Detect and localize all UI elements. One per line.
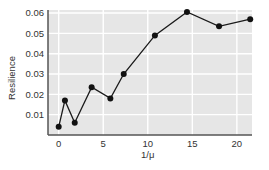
y-tick-label: 0.06 [26, 7, 45, 18]
y-tick-label: 0.04 [26, 48, 45, 59]
plot-background [48, 10, 252, 135]
data-point [72, 120, 78, 126]
data-point [184, 9, 190, 15]
x-tick-label: 0 [56, 138, 61, 149]
x-tick-label: 5 [101, 138, 106, 149]
data-point [62, 97, 68, 103]
resilience-line-chart: 0.010.020.030.040.050.06 05101520 1/μ Re… [0, 0, 269, 170]
y-tick-label: 0.01 [26, 109, 45, 120]
data-point [152, 32, 158, 38]
data-point [56, 124, 62, 130]
y-tick-labels: 0.010.020.030.040.050.06 [26, 7, 45, 120]
y-tick-label: 0.05 [26, 28, 45, 39]
x-axis-label: 1/μ [141, 149, 154, 160]
data-point [89, 84, 95, 90]
x-tick-label: 10 [142, 138, 153, 149]
data-point [107, 95, 113, 101]
x-tick-label: 20 [232, 138, 243, 149]
x-tick-label: 15 [187, 138, 198, 149]
y-tick-label: 0.03 [26, 68, 45, 79]
data-point [121, 71, 127, 77]
x-tick-labels: 05101520 [56, 138, 242, 149]
data-point [216, 23, 222, 29]
y-tick-label: 0.02 [26, 89, 45, 100]
y-axis-label: Resilience [6, 56, 17, 100]
data-point [247, 16, 253, 22]
